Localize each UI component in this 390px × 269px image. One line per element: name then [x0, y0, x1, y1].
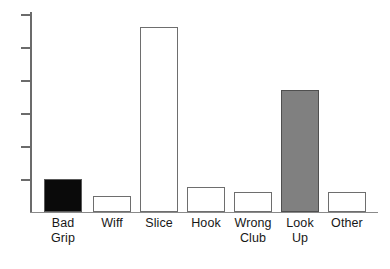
- bar-wrong-club[interactable]: [234, 192, 272, 212]
- bar-other[interactable]: [328, 192, 366, 212]
- x-axis-baseline: [30, 212, 378, 214]
- x-axis-category-labels: BadGripWiffSliceHookWrongClubLookUpOther: [0, 216, 390, 266]
- bar-bad-grip[interactable]: [44, 179, 82, 212]
- bar-hook[interactable]: [187, 187, 225, 212]
- category-label-other: Other: [318, 216, 376, 231]
- category-label-line: Grip: [34, 231, 92, 246]
- bar-slice[interactable]: [140, 27, 178, 212]
- category-label-line: Other: [318, 216, 376, 231]
- bar-chart: BadGripWiffSliceHookWrongClubLookUpOther: [0, 0, 390, 269]
- category-label-line: Up: [271, 231, 329, 246]
- bar-look-up[interactable]: [281, 90, 319, 212]
- bar-wiff[interactable]: [93, 196, 131, 213]
